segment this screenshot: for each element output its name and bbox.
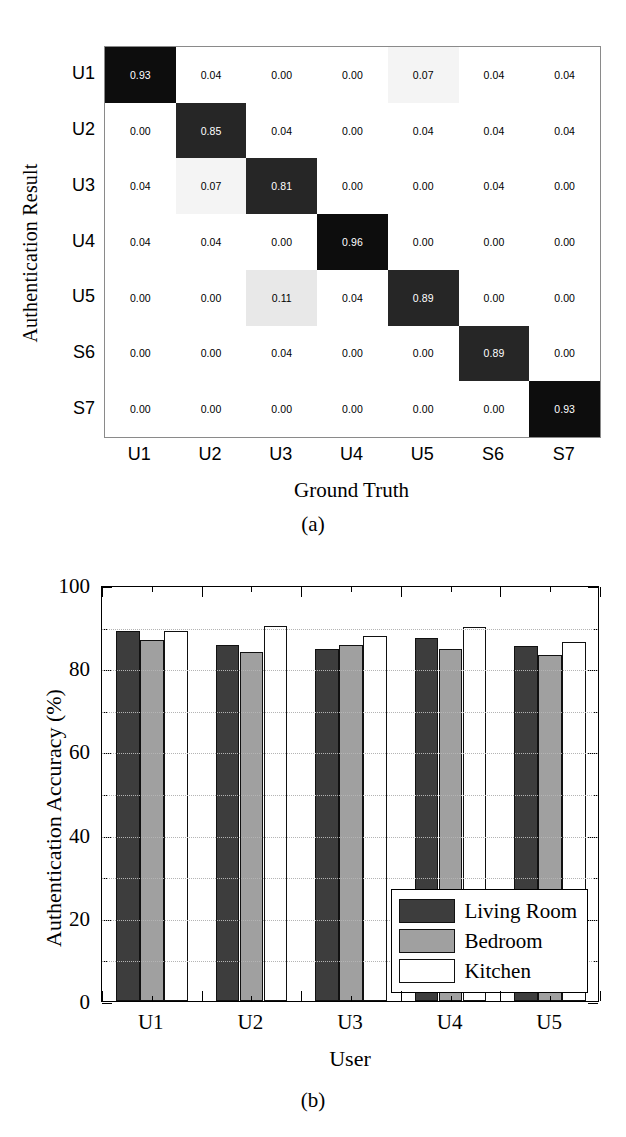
bar-chart-axis-tick	[152, 587, 153, 592]
confusion-matrix-column-label: U4	[316, 444, 387, 472]
bar-chart-gridline	[102, 837, 598, 838]
confusion-matrix-cell: 0.00	[459, 214, 530, 270]
bar-chart-x-tick-label: U2	[201, 1010, 301, 1040]
bar-chart-axis-tick	[301, 587, 302, 597]
bar-chart-bar	[315, 649, 339, 1001]
bar-chart-axis-tick	[550, 996, 551, 1001]
bar-chart-x-tick-label: U5	[499, 1010, 599, 1040]
caption-a: (a)	[0, 512, 626, 537]
bar-chart-x-tick-label: U3	[300, 1010, 400, 1040]
confusion-matrix-column-label: U3	[245, 444, 316, 472]
confusion-matrix-cell: 0.00	[176, 381, 247, 437]
legend-item: Bedroom	[399, 926, 577, 956]
confusion-matrix-cell: 0.00	[529, 326, 600, 382]
confusion-matrix-cell: 0.00	[459, 270, 530, 326]
confusion-matrix-cell: 0.04	[529, 103, 600, 159]
bar-chart-x-tick-label: U1	[101, 1010, 201, 1040]
bar-chart-gridline	[102, 712, 598, 713]
bar-chart-bar	[140, 640, 164, 1001]
bar-chart-axis-tick	[152, 996, 153, 1001]
confusion-matrix-cell: 0.00	[388, 326, 459, 382]
legend-item: Living Room	[399, 896, 577, 926]
bar-chart-axis-tick	[102, 587, 112, 588]
confusion-matrix-cell: 0.00	[388, 214, 459, 270]
confusion-matrix-x-axis-label: Ground Truth	[104, 478, 599, 503]
bar-chart-y-tick-label: 40	[20, 823, 90, 848]
confusion-matrix-cell: 0.93	[529, 381, 600, 437]
bar-chart-axis-tick	[301, 991, 302, 1001]
confusion-matrix-cell: 0.04	[176, 47, 247, 103]
confusion-matrix-cell: 0.00	[529, 158, 600, 214]
bar-chart-x-tick-label: U4	[400, 1010, 500, 1040]
bar-chart-y-tick-label: 100	[20, 574, 90, 599]
confusion-matrix-column-label: U2	[175, 444, 246, 472]
bar-chart-axis-tick	[600, 991, 601, 1001]
confusion-matrix-cell: 0.04	[176, 214, 247, 270]
confusion-matrix-cell: 0.00	[105, 326, 176, 382]
bar-chart-axis-tick	[550, 587, 551, 592]
confusion-matrix-cell: 0.00	[105, 270, 176, 326]
bar-chart-axis-tick	[202, 587, 203, 597]
confusion-matrix-column-labels: U1U2U3U4U5S6S7	[104, 444, 599, 472]
confusion-matrix-cell: 0.00	[317, 158, 388, 214]
bar-chart-axis-tick	[102, 991, 103, 1001]
bar-chart-axis-tick	[600, 587, 601, 597]
bar-chart-axis-tick	[451, 996, 452, 1001]
legend-label: Bedroom	[464, 931, 542, 952]
confusion-matrix-cell: 0.81	[246, 158, 317, 214]
confusion-matrix-cell: 0.96	[317, 214, 388, 270]
confusion-matrix-row-label: U2	[56, 102, 100, 158]
bar-chart-y-tick-label: 0	[20, 990, 90, 1015]
confusion-matrix-cell: 0.04	[459, 103, 530, 159]
confusion-matrix-cell: 0.00	[317, 47, 388, 103]
confusion-matrix-row-label: U1	[56, 46, 100, 102]
confusion-matrix-row-labels: U1U2U3U4U5S6S7	[56, 46, 100, 436]
bar-chart-gridline	[102, 795, 598, 796]
confusion-matrix-cell: 0.07	[176, 158, 247, 214]
confusion-matrix-cell: 0.00	[246, 381, 317, 437]
legend-swatch	[399, 929, 455, 953]
caption-b: (b)	[0, 1088, 626, 1113]
confusion-matrix-cell: 0.11	[246, 270, 317, 326]
confusion-matrix-row-label: U5	[56, 269, 100, 325]
bar-chart-x-axis-label: User	[101, 1046, 599, 1072]
confusion-matrix-row-label: U4	[56, 213, 100, 269]
confusion-matrix-cell: 0.89	[388, 270, 459, 326]
bar-chart-axis-tick	[351, 996, 352, 1001]
bar-chart-axis-tick	[251, 996, 252, 1001]
bar-chart-bar	[264, 626, 288, 1001]
bar-chart-gridline	[102, 878, 598, 879]
confusion-matrix-column-label: S6	[458, 444, 529, 472]
confusion-matrix-cell: 0.00	[317, 326, 388, 382]
confusion-matrix-cell: 0.00	[105, 381, 176, 437]
confusion-matrix-cell: 0.93	[105, 47, 176, 103]
confusion-matrix-cell: 0.89	[459, 326, 530, 382]
confusion-matrix-cell: 0.04	[317, 270, 388, 326]
bar-chart-axis-tick	[588, 587, 598, 588]
confusion-matrix-cell: 0.00	[176, 326, 247, 382]
confusion-matrix-cell: 0.00	[388, 158, 459, 214]
subfigure-b-bar-chart: Authentication Accuracy (%) 100806040200…	[0, 560, 626, 1137]
subfigure-a-confusion-matrix: Authentication Result U1U2U3U4U5S6S7 0.9…	[0, 0, 626, 560]
confusion-matrix-column-label: U5	[387, 444, 458, 472]
legend-swatch	[399, 959, 455, 983]
bar-chart-gridline	[102, 670, 598, 671]
bar-chart-bar	[164, 631, 188, 1001]
bar-chart-axis-tick	[102, 587, 103, 597]
bar-chart-bar	[363, 636, 387, 1001]
bar-chart-axis-tick	[401, 587, 402, 597]
confusion-matrix-cell: 0.00	[459, 381, 530, 437]
confusion-matrix-cell: 0.04	[388, 103, 459, 159]
bar-chart-axis-tick	[500, 991, 501, 1001]
confusion-matrix-cell: 0.04	[459, 47, 530, 103]
confusion-matrix-cell: 0.07	[388, 47, 459, 103]
bar-chart-y-tick-label: 80	[20, 657, 90, 682]
bar-chart-y-tick-labels: 100806040200	[20, 574, 96, 1018]
confusion-matrix-cell: 0.04	[529, 47, 600, 103]
bar-chart-axis-tick	[401, 991, 402, 1001]
bar-chart-axis-tick	[102, 1003, 112, 1004]
confusion-matrix-grid: 0.930.040.000.000.070.040.040.000.850.04…	[104, 46, 601, 438]
confusion-matrix-cell: 0.00	[246, 47, 317, 103]
confusion-matrix-y-axis-label: Authentication Result	[19, 73, 49, 433]
confusion-matrix-cell: 0.04	[246, 103, 317, 159]
